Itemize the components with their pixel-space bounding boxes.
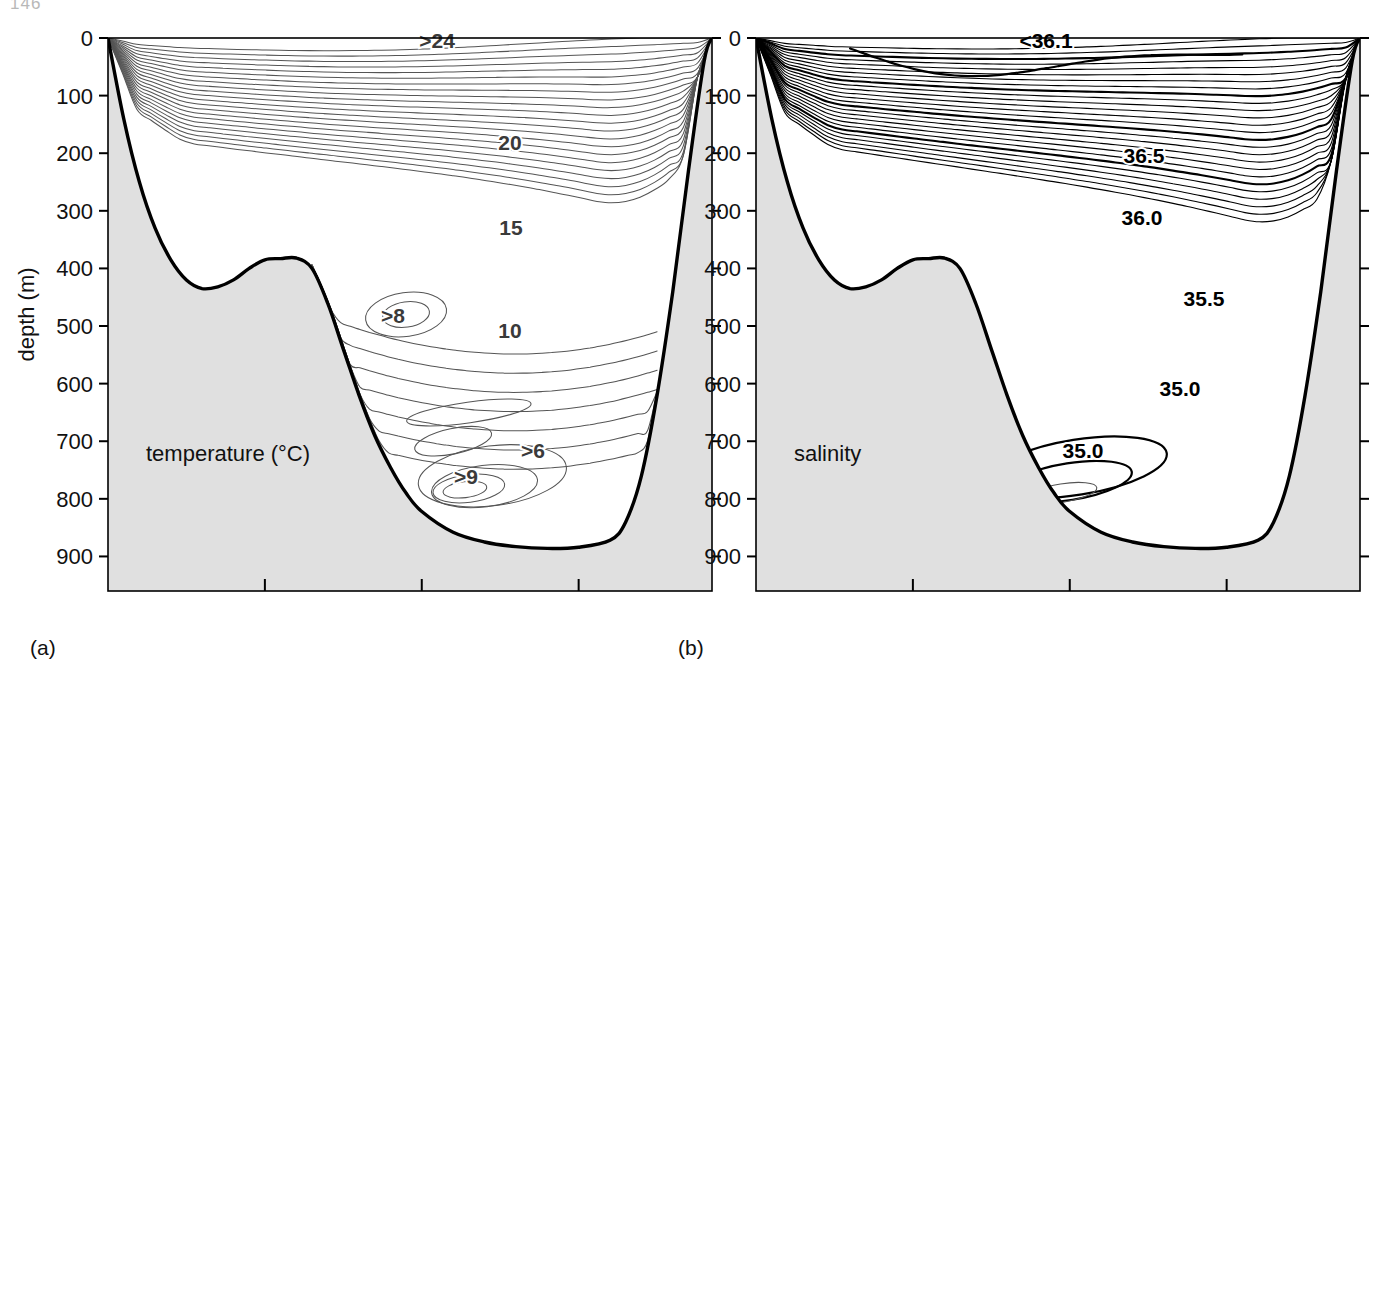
y-tick-label: 100 xyxy=(704,84,741,109)
contour-label: 35.0 xyxy=(1063,439,1104,462)
oceanographic-section-figure: temperature (°C)>242015>810>6>9(a)010020… xyxy=(0,0,1392,1310)
y-tick-label: 200 xyxy=(56,141,93,166)
y-tick-label: 300 xyxy=(56,199,93,224)
y-tick-label: 500 xyxy=(56,314,93,339)
contour-label: >24 xyxy=(419,29,455,52)
contour-label: 36.5 xyxy=(1124,144,1165,167)
y-tick-label: 900 xyxy=(704,544,741,569)
y-tick-label: 600 xyxy=(56,372,93,397)
page-folio: 146 xyxy=(10,0,41,14)
y-tick-label: 300 xyxy=(704,199,741,224)
contour-label: >6 xyxy=(521,439,545,462)
panel-caption: salinity xyxy=(794,441,861,466)
panel-b: salinity<36.136.536.035.535.035.0(b) xyxy=(678,29,1360,659)
y-tick-label: 800 xyxy=(56,487,93,512)
panel-letter-a: (a) xyxy=(30,636,56,659)
y-axis-label: depth (m) xyxy=(14,267,39,361)
y-tick-label: 600 xyxy=(704,372,741,397)
y-tick-label: 500 xyxy=(704,314,741,339)
y-tick-label: 200 xyxy=(704,141,741,166)
y-tick-label: 400 xyxy=(56,256,93,281)
contour-label: >9 xyxy=(454,465,478,488)
contour-label: 35.0 xyxy=(1160,377,1201,400)
y-tick-label: 700 xyxy=(56,429,93,454)
contour-label: 36.0 xyxy=(1122,206,1163,229)
plot-background xyxy=(108,663,712,1216)
y-tick-label: 900 xyxy=(56,544,93,569)
panel-c xyxy=(108,663,712,1216)
y-tick-label: 800 xyxy=(704,487,741,512)
contour-label: <36.1 xyxy=(1019,29,1072,52)
contour-label: 10 xyxy=(498,319,521,342)
contour-label: 35.5 xyxy=(1184,287,1225,310)
panel-a: temperature (°C)>242015>810>6>9(a) xyxy=(30,29,712,659)
y-tick-label: 0 xyxy=(81,26,93,51)
y-tick-label: 700 xyxy=(704,429,741,454)
y-tick-label: 0 xyxy=(729,26,741,51)
panel-caption: temperature (°C) xyxy=(146,441,310,466)
contour-label: >8 xyxy=(381,304,405,327)
contour-label: 20 xyxy=(498,131,521,154)
y-tick-label: 400 xyxy=(704,256,741,281)
figure-container: 146 temperature (°C)>242015>810>6>9(a)01… xyxy=(0,0,1392,1310)
contour-label: 15 xyxy=(499,216,523,239)
y-tick-label: 100 xyxy=(56,84,93,109)
panel-letter-b: (b) xyxy=(678,636,704,659)
